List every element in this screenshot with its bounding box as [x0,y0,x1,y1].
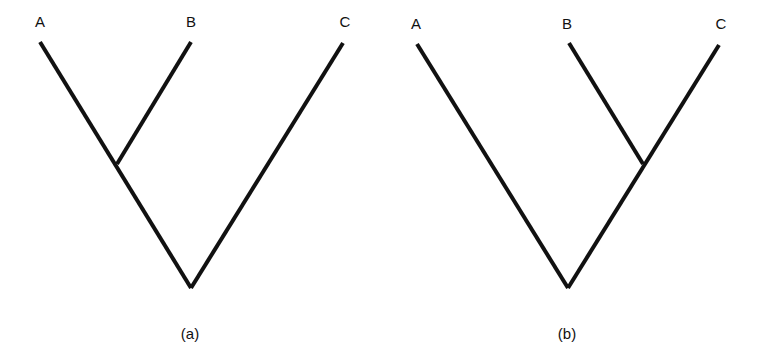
tree-a-label-a: A [35,14,45,29]
tree-b-branches [417,43,719,288]
tree-b-label-a: A [411,16,421,31]
tree-a-label-b: B [186,14,196,29]
tree-a-label-c: C [340,14,351,29]
branch-a-leaf-b [117,42,191,164]
tree-a-branches [40,42,343,288]
branch-a-leaf-c [191,43,343,288]
tree-b-caption: (b) [558,326,576,341]
tree-b-label-c: C [716,16,727,31]
tree-diagrams [0,0,757,355]
branch-b-leaf-a [417,44,568,288]
branch-b-leaf-b [569,43,643,164]
tree-b-label-b: B [562,16,572,31]
tree-a-caption: (a) [181,326,199,341]
